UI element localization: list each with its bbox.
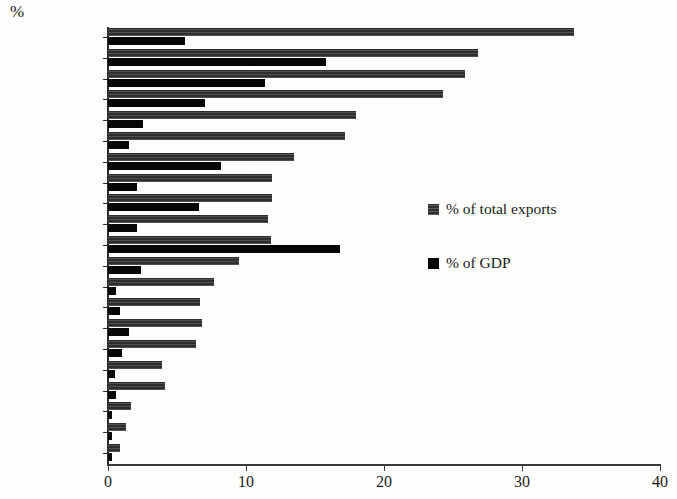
x-axis-tick-label: 20 (376, 473, 392, 491)
x-axis-tick-label: 0 (104, 473, 112, 491)
bar-exports (108, 70, 465, 78)
bar-exports (108, 423, 126, 431)
bar-gdp (108, 328, 129, 336)
x-axis-tick-label: 10 (238, 473, 254, 491)
bar-gdp (108, 370, 115, 378)
chart-row: Korea (108, 69, 660, 90)
legend-swatch-gdp-icon (428, 258, 439, 269)
bar-gdp (108, 37, 185, 45)
bar-exports (108, 278, 214, 286)
bar-exports (108, 49, 478, 57)
bar-gdp (108, 58, 326, 66)
chart-row: Russia (108, 318, 660, 339)
legend-item-exports: % of total exports (428, 200, 557, 218)
bar-exports (108, 298, 200, 306)
bar-gdp (108, 120, 143, 128)
x-axis-tick-label: 30 (514, 473, 530, 491)
legend-label-exports: % of total exports (446, 200, 557, 218)
chart-row: Argentina (108, 297, 660, 318)
chart-row: Indonesia (108, 214, 660, 235)
bar-gdp (108, 224, 137, 232)
chart-row: Japan (108, 110, 660, 131)
axis-unit-label: % (10, 2, 25, 22)
chart-row: Brazil (108, 131, 660, 152)
bar-gdp (108, 79, 265, 87)
bar-gdp (108, 391, 116, 399)
chart-row: Singapore (108, 235, 660, 256)
chart-row: Malaysia (108, 152, 660, 173)
chart-row: UK (108, 381, 660, 402)
bar-exports (108, 111, 356, 119)
x-axis-tick (660, 464, 661, 471)
bar-exports (108, 132, 345, 140)
bar-gdp (108, 307, 120, 315)
legend-label-gdp: % of GDP (446, 254, 511, 272)
chart-row: India (108, 360, 660, 381)
chart-row: Thailand (108, 193, 660, 214)
chart-row: Mexico (108, 422, 660, 443)
bar-exports (108, 257, 239, 265)
bar-exports (108, 215, 268, 223)
chart-row: Taiwan (108, 48, 660, 69)
chart-row: US (108, 277, 660, 298)
x-axis-tick-label: 40 (652, 473, 668, 491)
bar-exports (108, 402, 131, 410)
chart-row: Australia (108, 27, 660, 48)
bar-gdp (108, 411, 112, 419)
chart-row: Turkey (108, 401, 660, 422)
chart-row: Chile (108, 89, 660, 110)
bar-exports (108, 236, 271, 244)
bar-exports (108, 28, 574, 36)
bar-gdp (108, 287, 116, 295)
bar-exports (108, 444, 120, 452)
bar-gdp (108, 245, 340, 253)
x-axis-tick (108, 464, 109, 471)
bar-exports (108, 319, 202, 327)
bar-exports (108, 174, 272, 182)
bar-exports (108, 90, 443, 98)
plot-area: AustraliaTaiwanKoreaChileJapanBrazilMala… (108, 27, 660, 464)
bar-gdp (108, 266, 141, 274)
bar-exports (108, 361, 162, 369)
legend-swatch-exports-icon (428, 204, 439, 215)
chart-row: S.Africa (108, 256, 660, 277)
bar-exports (108, 194, 272, 202)
x-axis-tick (246, 464, 247, 471)
chart-row: Philippines (108, 173, 660, 194)
bar-exports (108, 340, 196, 348)
bar-gdp (108, 183, 137, 191)
bar-exports (108, 153, 294, 161)
bar-gdp (108, 141, 129, 149)
legend-item-gdp: % of GDP (428, 254, 557, 272)
bar-gdp (108, 432, 112, 440)
bar-chart: % AustraliaTaiwanKoreaChileJapanBrazilMa… (0, 0, 677, 499)
chart-row: Eurozone (108, 339, 660, 360)
x-axis-tick (522, 464, 523, 471)
chart-row: Poland (108, 443, 660, 464)
bar-exports (108, 382, 165, 390)
bar-gdp (108, 203, 199, 211)
x-axis-tick (384, 464, 385, 471)
bar-gdp (108, 162, 221, 170)
chart-legend: % of total exports % of GDP (428, 200, 557, 308)
bar-gdp (108, 99, 205, 107)
bar-gdp (108, 453, 112, 461)
bar-gdp (108, 349, 122, 357)
